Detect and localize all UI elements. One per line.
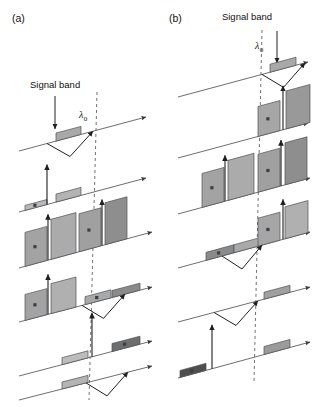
band-marker-a-3-1 bbox=[33, 245, 36, 248]
band-marker-b-2-1 bbox=[266, 117, 269, 120]
band-marker-a-4-1 bbox=[33, 303, 36, 306]
spectral-band-a-2-2 bbox=[56, 187, 81, 202]
spectral-band-b-1-1 bbox=[270, 57, 296, 72]
band-marker-a-5-2 bbox=[123, 343, 126, 346]
spectral-band-a-4-4 bbox=[112, 283, 140, 297]
spectral-band-b-2-2 bbox=[286, 84, 310, 128]
spectral-band-b-3-4 bbox=[285, 137, 307, 185]
spectral-band-a-4-2 bbox=[51, 277, 76, 314]
band-marker-a-2-1 bbox=[33, 204, 36, 207]
lambda-zero-label-b: λ0 bbox=[254, 40, 264, 54]
panel-label-b: (b) bbox=[169, 12, 182, 24]
spectral-band-b-4-4 bbox=[285, 201, 308, 239]
signal-band-label-b: Signal band bbox=[222, 11, 272, 22]
spectral-band-b-3-2 bbox=[228, 153, 254, 200]
band-marker-b-3-3 bbox=[266, 169, 269, 172]
band-marker-a-3-3 bbox=[87, 228, 90, 231]
figure-root: (a)Signal bandλ0(b)Signal bandλ0 bbox=[0, 0, 314, 407]
signal-band-label-a: Signal band bbox=[30, 79, 80, 90]
band-marker-b-4-3 bbox=[266, 228, 269, 231]
spectral-band-a-5-1 bbox=[62, 351, 88, 365]
spectral-band-b-5-1 bbox=[264, 285, 290, 299]
diagram-content: (a)Signal bandλ0(b)Signal bandλ0 bbox=[12, 11, 310, 400]
panel-label-a: (a) bbox=[12, 12, 25, 24]
lambda-zero-dashed-line-b bbox=[254, 30, 262, 382]
band-marker-a-4-3 bbox=[95, 296, 98, 299]
spectral-band-b-4-2 bbox=[234, 238, 260, 253]
spectral-band-b-6-2 bbox=[264, 339, 290, 354]
spectral-band-a-3-2 bbox=[51, 213, 76, 260]
spectral-band-a-1-1 bbox=[56, 126, 81, 141]
transfer-arrow-b-5-1 bbox=[214, 301, 258, 326]
spectral-band-a-6-1 bbox=[62, 375, 88, 389]
band-marker-b-4-1 bbox=[217, 251, 220, 254]
diagram-canvas: (a)Signal bandλ0(b)Signal bandλ0 bbox=[0, 0, 314, 407]
spectral-band-a-3-4 bbox=[105, 197, 127, 245]
lambda-zero-label-a: λ0 bbox=[78, 109, 88, 123]
band-marker-b-3-1 bbox=[210, 186, 213, 189]
band-marker-b-6-1 bbox=[190, 369, 193, 372]
wavelength-axis-a-1 bbox=[19, 117, 146, 151]
transfer-arrow-a-6-1 bbox=[86, 372, 128, 396]
